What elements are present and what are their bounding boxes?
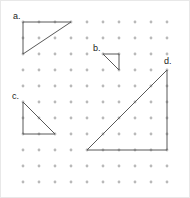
shape-label-a: a. — [13, 12, 21, 21]
triangle-layer — [1, 1, 190, 198]
triangle-a — [23, 22, 71, 54]
triangle-b — [103, 54, 119, 70]
shape-label-b: b. — [93, 44, 101, 53]
triangle-c — [23, 102, 55, 134]
shape-label-d: d. — [164, 57, 172, 66]
triangle-d — [87, 70, 167, 150]
dot-grid-triangles-figure: a. b. c. d. — [0, 0, 190, 198]
shape-label-c: c. — [12, 92, 19, 101]
